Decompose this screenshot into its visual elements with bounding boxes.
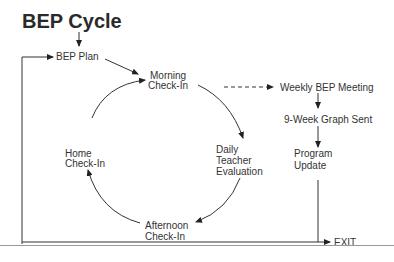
- node-exit: EXIT: [334, 237, 356, 248]
- node-program-line1: Program: [294, 148, 332, 159]
- flow-arrows: [0, 0, 394, 262]
- node-afternoon-line2: Check-In: [145, 231, 185, 242]
- node-graph-sent: 9-Week Graph Sent: [284, 114, 372, 125]
- node-program-line2: Update: [294, 160, 326, 171]
- node-daily-line1: Daily: [216, 144, 238, 155]
- node-afternoon-line1: Afternoon: [145, 220, 188, 231]
- node-weekly-meeting: Weekly BEP Meeting: [280, 82, 374, 93]
- node-bep-plan: BEP Plan: [56, 51, 99, 62]
- bottom-divider: [0, 245, 394, 246]
- node-home-line2: Check-In: [65, 158, 105, 169]
- node-morning-line2: Check-In: [148, 80, 188, 91]
- node-daily-line3: Evaluation: [216, 166, 263, 177]
- node-daily-line2: Teacher: [216, 155, 252, 166]
